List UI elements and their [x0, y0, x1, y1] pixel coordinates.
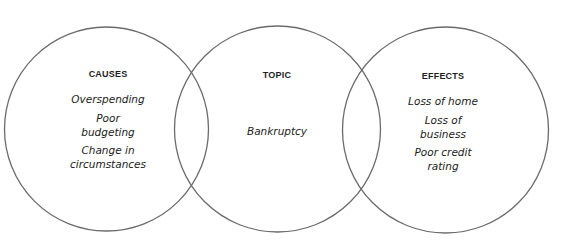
- cause-item: Overspending: [71, 93, 145, 105]
- effect-item: rating: [427, 160, 458, 172]
- effect-item: Poor credit: [414, 146, 472, 158]
- venn-diagram: CAUSES Overspending Poor budgeting Chang…: [0, 0, 563, 248]
- cause-item: budgeting: [81, 126, 135, 138]
- cause-item: Poor: [96, 112, 120, 124]
- effects-group: EFFECTS Loss of home Loss of business Po…: [408, 71, 478, 172]
- cause-item: Change in: [81, 144, 134, 156]
- cause-item: circumstances: [70, 158, 147, 170]
- topic-heading: TOPIC: [263, 70, 292, 80]
- topic-item: Bankruptcy: [247, 125, 308, 137]
- effects-heading: EFFECTS: [422, 71, 464, 81]
- topic-group: TOPIC Bankruptcy: [247, 70, 308, 137]
- effect-item: Loss of home: [408, 95, 478, 107]
- effect-item: Loss of: [425, 114, 464, 126]
- causes-group: CAUSES Overspending Poor budgeting Chang…: [70, 69, 147, 170]
- effect-item: business: [420, 128, 466, 140]
- causes-heading: CAUSES: [89, 69, 128, 79]
